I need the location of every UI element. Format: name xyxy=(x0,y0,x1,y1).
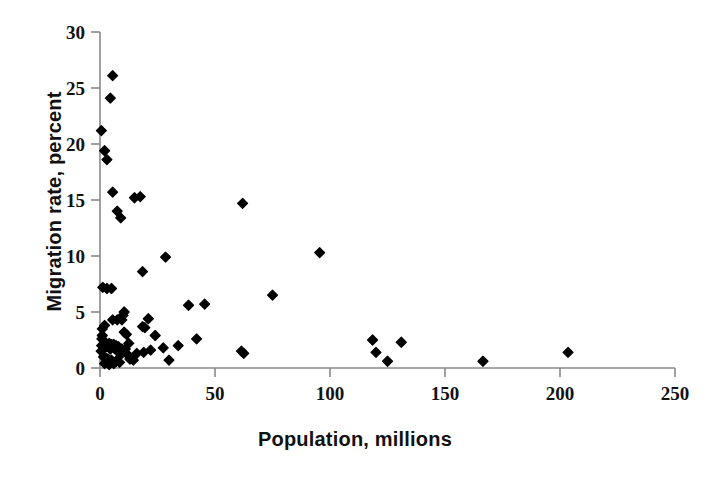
tick-layer xyxy=(91,32,675,377)
y-axis-tick-label: 10 xyxy=(66,246,85,267)
scatter-chart: 050100150200250051015202530 Population, … xyxy=(0,0,710,493)
data-point-marker xyxy=(200,299,210,309)
data-point-marker xyxy=(100,146,110,156)
x-axis-title: Population, millions xyxy=(0,428,710,451)
data-point-marker xyxy=(164,355,174,365)
data-point-marker xyxy=(102,155,112,165)
x-axis-tick-label: 50 xyxy=(206,383,225,404)
data-point-marker xyxy=(478,356,488,366)
data-point-marker xyxy=(105,93,115,103)
y-axis-tick-label: 30 xyxy=(66,22,85,43)
y-axis-title-wrapper: Migration rate, percent xyxy=(43,22,66,382)
data-point-marker xyxy=(173,341,183,351)
data-point-marker xyxy=(96,126,106,136)
data-point-marker xyxy=(238,198,248,208)
y-axis-tick-label: 0 xyxy=(76,358,86,379)
data-point-marker xyxy=(368,335,378,345)
x-axis-tick-label: 100 xyxy=(316,383,345,404)
data-point-marker xyxy=(138,267,148,277)
data-points-layer xyxy=(96,71,573,370)
x-axis-tick-label: 0 xyxy=(95,383,105,404)
data-point-marker xyxy=(108,187,118,197)
data-point-marker xyxy=(563,347,573,357)
plot-area: 050100150200250051015202530 xyxy=(0,0,710,493)
y-axis-tick-label: 15 xyxy=(66,190,85,211)
axis-layer xyxy=(100,32,675,368)
y-axis-tick-label: 5 xyxy=(76,302,86,323)
x-axis-tick-label: 200 xyxy=(546,383,575,404)
data-point-marker xyxy=(108,71,118,81)
data-point-marker xyxy=(383,356,393,366)
data-point-marker xyxy=(192,334,202,344)
y-axis-title: Migration rate, percent xyxy=(43,91,65,311)
x-axis-tick-label: 250 xyxy=(661,383,690,404)
data-point-marker xyxy=(315,248,325,258)
data-point-marker xyxy=(184,300,194,310)
data-point-marker xyxy=(161,252,171,262)
data-point-marker xyxy=(268,290,278,300)
x-axis-tick-label: 150 xyxy=(431,383,460,404)
data-point-marker xyxy=(158,343,168,353)
data-point-marker xyxy=(396,337,406,347)
data-point-marker xyxy=(150,331,160,341)
y-axis-tick-label: 20 xyxy=(66,134,85,155)
data-point-marker xyxy=(371,347,381,357)
y-axis-tick-label: 25 xyxy=(66,78,85,99)
